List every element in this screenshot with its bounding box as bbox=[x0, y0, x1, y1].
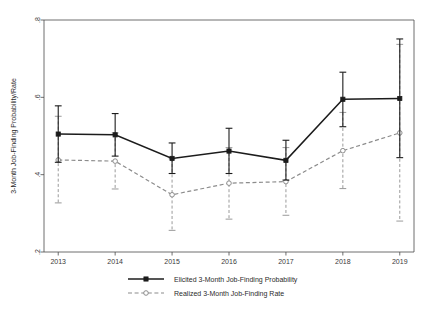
x-tick-label: 2014 bbox=[107, 258, 123, 265]
series-elicited bbox=[55, 39, 403, 180]
x-tick-label: 2016 bbox=[221, 258, 237, 265]
y-tick-label: .4 bbox=[34, 172, 41, 178]
data-point-marker bbox=[170, 192, 175, 197]
x-tick-label: 2013 bbox=[50, 258, 66, 265]
y-tick-label: .6 bbox=[34, 94, 41, 100]
chart-legend: Elicited 3-Month Job-Finding Probability… bbox=[128, 276, 298, 298]
chart-figure: .2.4.6.8 2013201420152016201720182019 3-… bbox=[0, 0, 428, 311]
data-point-marker bbox=[170, 156, 174, 160]
x-tick-label: 2019 bbox=[392, 258, 408, 265]
y-axis-ticks: .2.4.6.8 bbox=[34, 17, 44, 255]
data-point-marker bbox=[113, 159, 118, 164]
y-tick-label: .8 bbox=[34, 17, 41, 23]
legend-marker-realized bbox=[144, 291, 149, 296]
data-point-marker bbox=[341, 97, 345, 101]
y-tick-label: .2 bbox=[34, 249, 41, 255]
data-point-marker bbox=[398, 96, 402, 100]
y-axis-title: 3-Month Job-Finding Probability/Rate bbox=[10, 78, 18, 194]
chart-canvas: .2.4.6.8 2013201420152016201720182019 3-… bbox=[0, 0, 428, 311]
x-tick-label: 2018 bbox=[335, 258, 351, 265]
legend-marker-elicited bbox=[144, 277, 148, 281]
data-point-marker bbox=[341, 148, 346, 153]
x-tick-label: 2017 bbox=[278, 258, 294, 265]
legend-label: Elicited 3-Month Job-Finding Probability bbox=[174, 276, 298, 284]
data-point-marker bbox=[113, 133, 117, 137]
legend-label: Realized 3-Month Job-Finding Rate bbox=[174, 290, 284, 298]
data-point-marker bbox=[56, 132, 60, 136]
data-point-marker bbox=[284, 158, 288, 162]
data-point-marker bbox=[227, 181, 232, 186]
x-axis-ticks: 2013201420152016201720182019 bbox=[50, 252, 407, 265]
data-point-marker bbox=[227, 149, 231, 153]
x-tick-label: 2015 bbox=[164, 258, 180, 265]
